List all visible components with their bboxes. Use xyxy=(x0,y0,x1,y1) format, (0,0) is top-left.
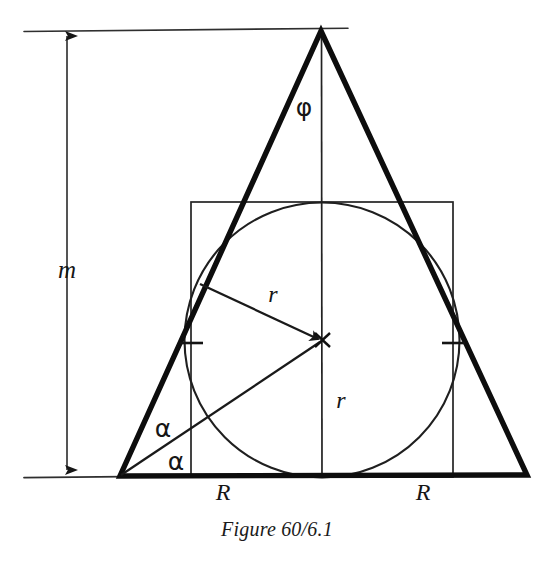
label-base-half-right-R: R xyxy=(415,479,431,505)
geometry-diagram: m φ r r α α R R xyxy=(0,0,554,567)
label-radius-upper-r: r xyxy=(268,281,278,307)
label-base-half-left-R: R xyxy=(215,479,231,505)
baseline-reference-line xyxy=(24,477,124,478)
label-radius-lower-r: r xyxy=(336,387,346,413)
isosceles-triangle xyxy=(120,31,527,476)
label-apex-angle-phi: φ xyxy=(296,93,313,122)
label-height-m: m xyxy=(58,256,76,283)
label-angle-alpha-lower: α xyxy=(168,447,184,476)
radius-to-tangent-line xyxy=(200,284,318,339)
label-angle-alpha-upper: α xyxy=(155,414,171,443)
figure-container: m φ r r α α R R Figure 60/6.1 xyxy=(0,0,554,567)
top-reference-line xyxy=(24,28,348,31)
vertical-axis-line xyxy=(322,33,323,477)
figure-caption: Figure 60/6.1 xyxy=(0,518,554,541)
